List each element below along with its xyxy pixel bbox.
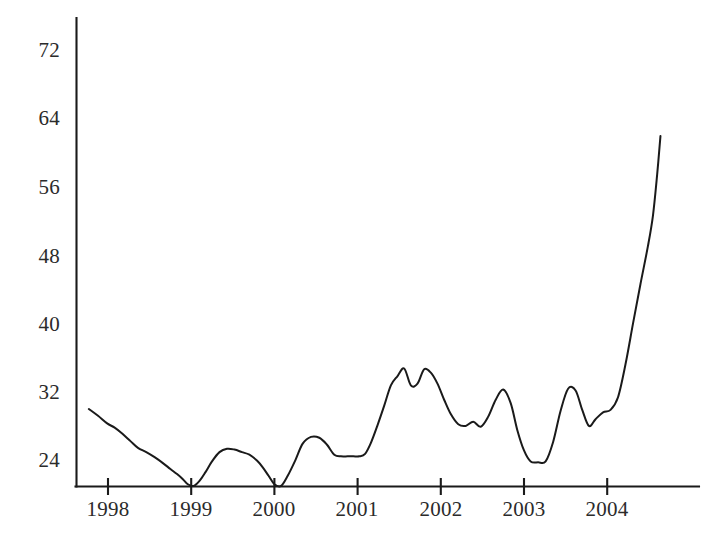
y-tick-label: 40	[8, 314, 60, 335]
x-tick-label: 2004	[567, 499, 647, 520]
y-tick-label: 48	[8, 246, 60, 267]
y-tick-label: 32	[8, 382, 60, 403]
data-series-line	[89, 136, 661, 486]
y-tick-label: 56	[8, 177, 60, 198]
x-tick-label: 1998	[68, 499, 148, 520]
y-tick-label: 24	[8, 450, 60, 471]
x-tick-label: 2000	[234, 499, 314, 520]
y-tick-label: 72	[8, 40, 60, 61]
chart-plot-area	[0, 0, 702, 543]
axes-group	[76, 18, 700, 487]
x-tick-label: 1999	[151, 499, 231, 520]
line-chart-figure: 72 64 56 48 40 32 24 1998 1999 2000 2001…	[0, 0, 702, 543]
y-tick-label: 64	[8, 108, 60, 129]
x-tick-label: 2001	[317, 499, 397, 520]
x-tick-label: 2003	[484, 499, 564, 520]
x-tick-label: 2002	[401, 499, 481, 520]
